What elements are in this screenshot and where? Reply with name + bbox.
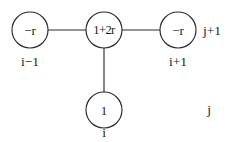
label-space-index-right: i+1 [169, 55, 187, 69]
stencil-graphics [0, 0, 237, 142]
label-time-level-lower: j [207, 103, 211, 117]
node-value-right: −r [172, 24, 183, 37]
node-value-bottom: 1 [101, 104, 107, 117]
node-value-center: 1+2r [93, 24, 114, 37]
label-space-index-left: i−1 [21, 55, 39, 69]
stencil-diagram: −r 1+2r −r 1 i−1 i+1 i j+1 j [0, 0, 237, 142]
label-time-level-upper: j+1 [203, 24, 221, 38]
label-space-index-bottom: i [102, 126, 106, 140]
node-value-left: −r [24, 24, 35, 37]
